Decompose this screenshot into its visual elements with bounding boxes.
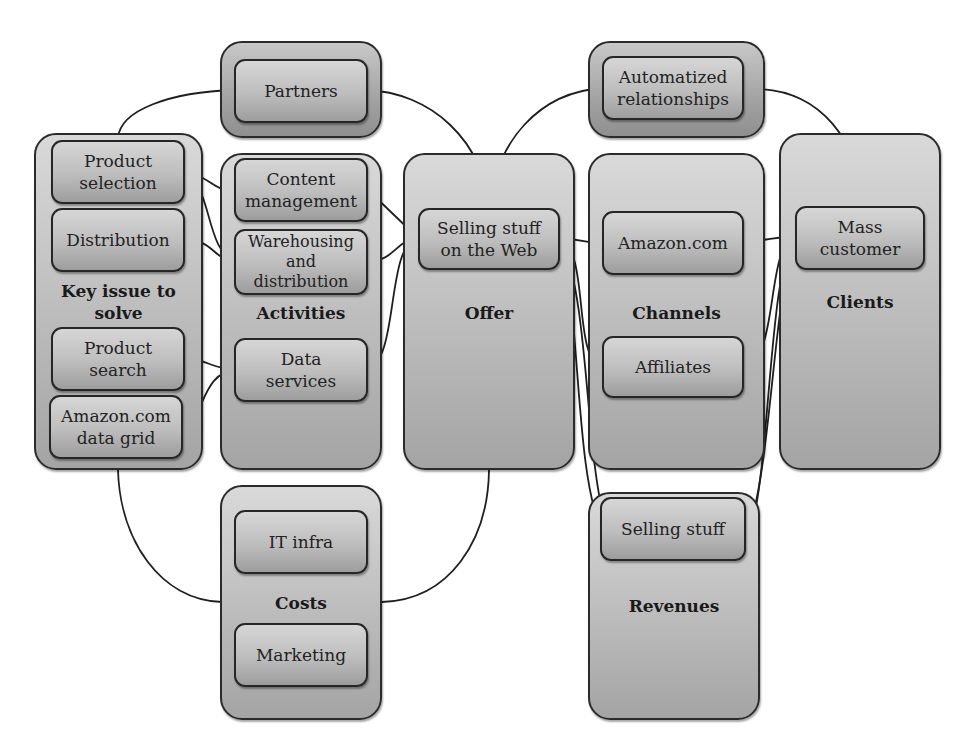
node-product-search: Product search xyxy=(51,327,185,391)
node-it-infra: IT infra xyxy=(234,510,368,574)
revenues-label: Revenues xyxy=(588,595,760,617)
node-marketing: Marketing xyxy=(234,623,368,687)
node-amazon-com: Amazon.com xyxy=(602,211,744,275)
node-partners: Partners xyxy=(234,59,368,123)
activities-label: Activities xyxy=(220,302,382,324)
key-issue-label: Key issue to solve xyxy=(34,280,203,324)
node-warehousing: Warehousing and distribution xyxy=(234,229,368,295)
costs-label: Costs xyxy=(220,592,382,614)
offer-label: Offer xyxy=(403,302,575,324)
node-selling-web: Selling stuff on the Web xyxy=(418,208,560,270)
channels-label: Channels xyxy=(588,302,765,324)
node-automatized-relationships: Automatized relationships xyxy=(602,56,744,120)
link-product-selection-partners xyxy=(118,90,235,138)
link-key-issue-costs xyxy=(118,470,222,602)
node-data-services: Data services xyxy=(234,338,368,402)
node-selling-stuff: Selling stuff xyxy=(600,497,746,561)
node-product-selection: Product selection xyxy=(51,140,185,204)
node-amazon-data-grid: Amazon.com data grid xyxy=(49,395,183,459)
node-content-management: Content management xyxy=(234,158,368,222)
clients-label: Clients xyxy=(779,291,941,313)
node-mass-customer: Mass customer xyxy=(795,206,925,270)
node-distribution: Distribution xyxy=(51,208,185,272)
node-affiliates: Affiliates xyxy=(602,336,744,398)
link-costs-offer xyxy=(382,470,489,602)
